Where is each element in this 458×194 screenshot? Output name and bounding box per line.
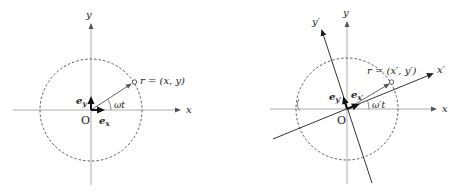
left-ey-label: ey (76, 95, 87, 108)
right-eyp-label: ey′ (329, 91, 341, 104)
right-position-label: r = (x′, y′) (367, 65, 417, 76)
left-origin-label: O (81, 114, 90, 127)
left-position-vector (91, 84, 131, 110)
left-ex-label: ex (99, 115, 110, 128)
left-x-axis-label: x (186, 104, 192, 115)
right-basis-eyp (344, 99, 347, 109)
right-y-axis-label: y (342, 7, 349, 18)
right-xp-axis-label: x′ (437, 64, 446, 75)
right-x-axis-label: x (442, 103, 448, 114)
right-yp-axis-label: y′ (311, 16, 321, 27)
rotating-frame-figure: y x O ex ey ωt r = (x, y) y x y′ x′ O ex… (0, 0, 458, 194)
left-y-axis-label: y (85, 9, 92, 20)
left-angle-arc (108, 100, 111, 111)
right-exp-label: ex′ (351, 89, 364, 102)
left-position-label: r = (x, y) (140, 75, 185, 86)
right-diagram: y x y′ x′ O ex′ ey′ ω′t r = (x′, y′) (270, 7, 448, 184)
left-angle-label: ωt (114, 100, 125, 110)
right-particle-point (389, 80, 393, 84)
right-angle-arc (368, 101, 370, 110)
right-angle-label: ω′t (372, 100, 385, 110)
left-diagram: y x O ex ey ωt r = (x, y) (13, 9, 192, 185)
right-origin-label: O (337, 114, 346, 127)
left-particle-point (132, 80, 136, 84)
